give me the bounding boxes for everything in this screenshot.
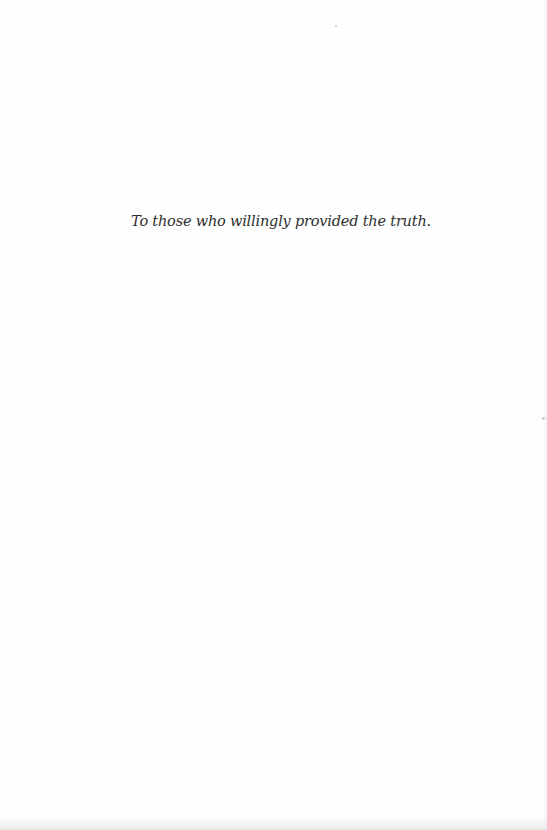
page-edge-shadow xyxy=(0,816,547,830)
book-page: To those who willingly provided the trut… xyxy=(0,0,547,830)
page-edge-shadow xyxy=(543,0,547,830)
dedication-text: To those who willingly provided the trut… xyxy=(0,210,547,232)
scan-speck xyxy=(335,25,337,27)
